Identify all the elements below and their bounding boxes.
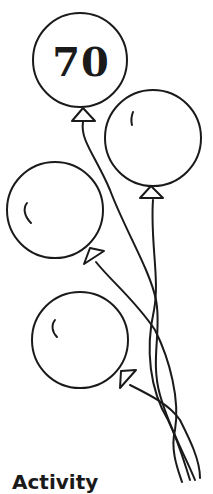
string-right (150, 200, 190, 480)
balloon-right (105, 90, 201, 186)
balloon-left (7, 162, 103, 258)
balloon-right-knot (140, 186, 163, 198)
section-heading: Activity (12, 470, 98, 494)
balloon-number-label: 70 (34, 38, 128, 85)
balloon-bottom (32, 292, 128, 388)
balloon-right-highlight (131, 112, 133, 125)
balloon-left-highlight (25, 203, 31, 223)
string-left (96, 262, 182, 482)
balloon-top-knot (72, 108, 95, 121)
balloon-bottom-knot (120, 370, 136, 388)
string-top (83, 122, 195, 480)
string-bottom (130, 385, 200, 478)
balloon-left-knot (84, 248, 104, 264)
balloon-bottom-highlight (53, 320, 57, 337)
